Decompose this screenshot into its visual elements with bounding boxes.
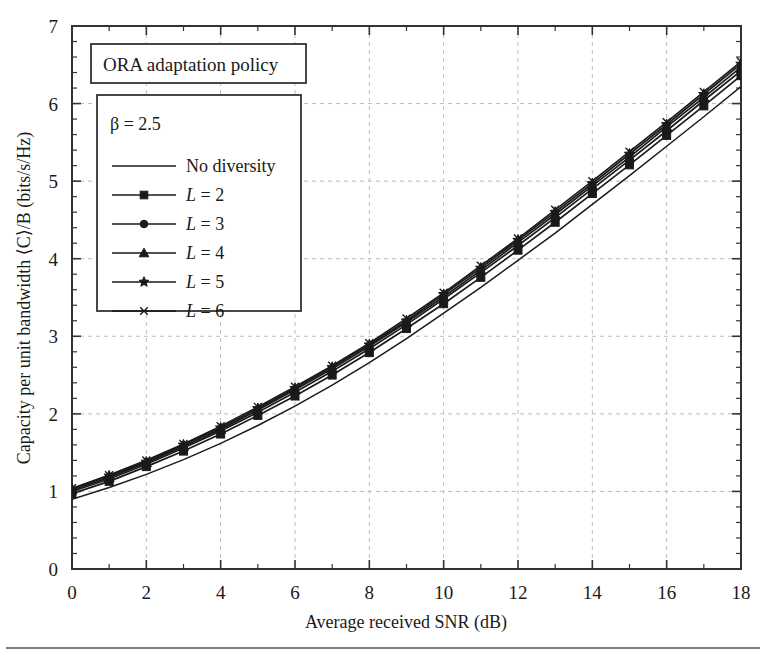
legend-item-label: L = 2 bbox=[185, 185, 224, 205]
legend: β = 2.5 No diversityL = 2L = 3L = 4L = 5… bbox=[97, 95, 301, 321]
legend-item-label: L = 6 bbox=[185, 301, 224, 321]
x-tick-label: 18 bbox=[732, 582, 751, 603]
x-tick-labels: 024681012141618 bbox=[67, 582, 750, 603]
y-tick-label: 2 bbox=[49, 404, 59, 425]
y-tick-label: 1 bbox=[49, 481, 59, 502]
y-tick-label: 5 bbox=[49, 171, 59, 192]
x-tick-label: 0 bbox=[67, 582, 77, 603]
x-tick-label: 4 bbox=[216, 582, 226, 603]
y-tick-label: 7 bbox=[49, 16, 59, 37]
legend-item-label: L = 3 bbox=[185, 214, 224, 234]
x-tick-label: 16 bbox=[657, 582, 676, 603]
capacity-vs-snr-chart: 024681012141618 01234567 Average receive… bbox=[0, 0, 766, 663]
chart-title-box: ORA adaptation policy bbox=[91, 44, 306, 83]
marker-circle bbox=[140, 220, 148, 228]
x-tick-label: 2 bbox=[142, 582, 152, 603]
y-tick-label: 6 bbox=[49, 94, 59, 115]
y-tick-labels: 01234567 bbox=[49, 16, 59, 580]
x-tick-label: 6 bbox=[290, 582, 300, 603]
marker-square bbox=[140, 191, 148, 199]
y-tick-label: 0 bbox=[49, 559, 59, 580]
x-tick-label: 12 bbox=[509, 582, 528, 603]
x-tick-label: 14 bbox=[583, 582, 603, 603]
x-tick-label: 10 bbox=[434, 582, 453, 603]
y-tick-label: 3 bbox=[49, 326, 59, 347]
y-tick-label: 4 bbox=[49, 249, 59, 270]
x-axis-title: Average received SNR (dB) bbox=[305, 612, 507, 633]
legend-item-label: L = 4 bbox=[185, 243, 224, 263]
legend-item-label: No diversity bbox=[186, 156, 276, 176]
x-tick-label: 8 bbox=[365, 582, 375, 603]
legend-item-label: L = 5 bbox=[185, 272, 224, 292]
legend-beta-annotation: β = 2.5 bbox=[110, 114, 161, 134]
figure-container: 024681012141618 01234567 Average receive… bbox=[0, 0, 766, 663]
chart-title-text: ORA adaptation policy bbox=[103, 54, 279, 75]
y-axis-title: Capacity per unit bandwidth ⟨C⟩/B (bits/… bbox=[14, 132, 35, 465]
